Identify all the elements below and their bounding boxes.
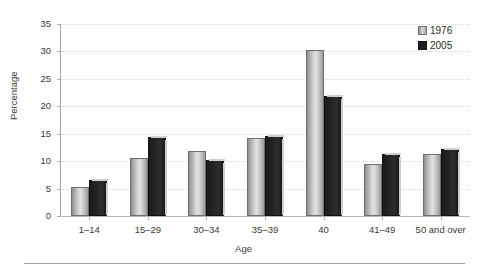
bar-2005-15–29[interactable] — [148, 137, 166, 216]
plot-area — [60, 24, 470, 216]
y-tick-label: 5 — [46, 184, 51, 194]
y-axis-tick — [57, 161, 61, 162]
y-tick-label: 35 — [40, 19, 51, 29]
x-tick-label: 15–29 — [135, 224, 161, 235]
bar-group — [247, 24, 283, 216]
bar-1976-30–34[interactable] — [188, 151, 206, 216]
y-axis-tick — [57, 134, 61, 135]
x-tick-label: 41–49 — [369, 224, 395, 235]
x-tick-label: 40 — [318, 224, 329, 235]
bar-1976-50-and-over[interactable] — [423, 154, 441, 216]
y-axis — [60, 24, 61, 216]
y-axis-tick — [57, 79, 61, 80]
x-tick-label: 30–34 — [193, 224, 219, 235]
bar-group — [188, 24, 224, 216]
bar-2005-1–14[interactable] — [89, 180, 107, 216]
legend-swatch-2005 — [418, 41, 427, 50]
y-axis-tick — [57, 106, 61, 107]
legend-item-2005[interactable]: 2005 — [418, 39, 452, 52]
x-axis-tick — [441, 216, 442, 220]
x-tick-label: 50 and over — [416, 224, 466, 235]
x-axis-title: Age — [0, 243, 487, 254]
legend-label-2005: 2005 — [430, 41, 452, 51]
legend-item-1976[interactable]: 1976 — [418, 24, 452, 37]
x-axis-tick — [206, 216, 207, 220]
y-axis-tick — [57, 51, 61, 52]
y-tick-label: 30 — [40, 47, 51, 57]
bar-1976-40[interactable] — [306, 50, 324, 216]
bar-2005-35–39[interactable] — [265, 136, 283, 216]
bar-2005-40[interactable] — [324, 96, 342, 216]
bar-1976-1–14[interactable] — [71, 187, 89, 216]
x-tick-label: 1–14 — [79, 224, 100, 235]
y-tick-label: 15 — [40, 129, 51, 139]
bar-group — [306, 24, 342, 216]
x-axis-tick — [148, 216, 149, 220]
legend-swatch-1976 — [418, 26, 427, 35]
x-axis-tick — [265, 216, 266, 220]
y-tick-label: 10 — [40, 156, 51, 166]
footer-rule — [24, 263, 465, 264]
bar-2005-30–34[interactable] — [206, 160, 224, 217]
bar-2005-41–49[interactable] — [382, 154, 400, 216]
bar-1976-41–49[interactable] — [364, 164, 382, 216]
bar-1976-35–39[interactable] — [247, 138, 265, 216]
x-axis-tick — [89, 216, 90, 220]
bar-group — [71, 24, 107, 216]
y-tick-label: 25 — [40, 74, 51, 84]
legend-label-1976: 1976 — [430, 26, 452, 36]
x-axis-tick — [382, 216, 383, 220]
y-tick-label: 20 — [40, 102, 51, 112]
y-axis-title: Percentage — [8, 71, 19, 120]
bar-group — [364, 24, 400, 216]
x-axis-tick — [324, 216, 325, 220]
x-tick-label: 35–39 — [252, 224, 278, 235]
y-axis-tick — [57, 24, 61, 25]
chart-figure: Percentage 05101520253035 1–1415–2930–34… — [0, 0, 487, 274]
bar-group — [130, 24, 166, 216]
bar-2005-50-and-over[interactable] — [441, 149, 459, 216]
bar-1976-15–29[interactable] — [130, 158, 148, 216]
chart-legend: 1976 2005 — [418, 24, 452, 54]
y-axis-tick — [57, 216, 61, 217]
y-axis-tick — [57, 189, 61, 190]
y-tick-label: 0 — [46, 211, 51, 221]
